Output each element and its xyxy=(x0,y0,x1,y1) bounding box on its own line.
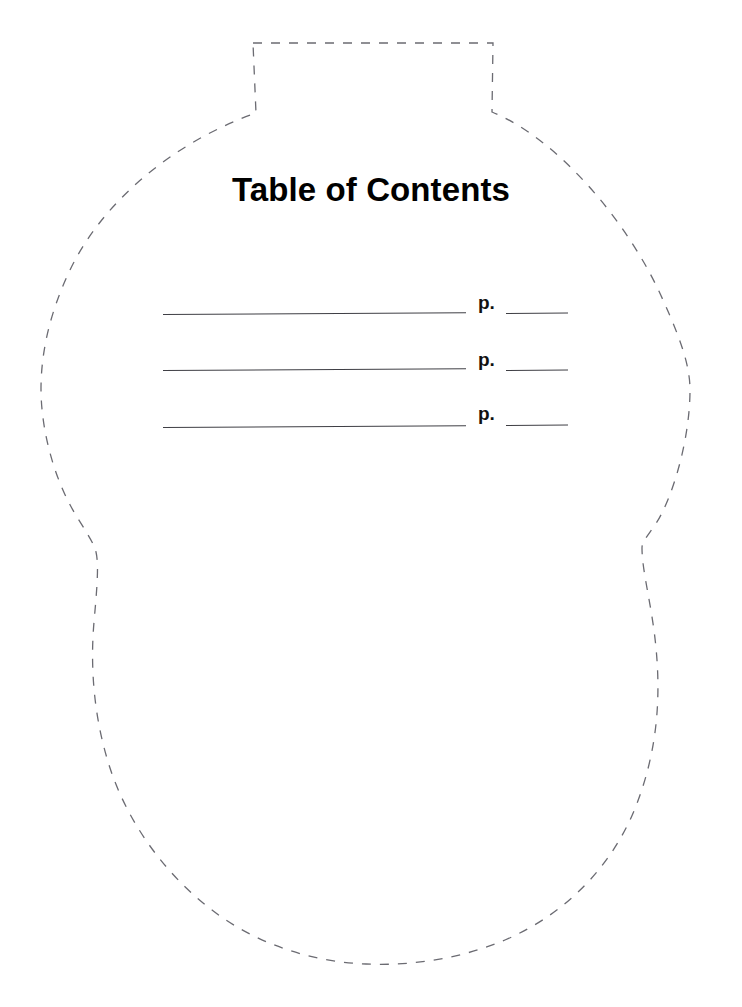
entry-page-blank-line[interactable] xyxy=(506,313,568,314)
entry-title-blank-line[interactable] xyxy=(163,425,466,428)
vase-outline-shape xyxy=(0,0,742,1007)
entry-page-label: p. xyxy=(478,349,495,371)
table-of-contents-row: p. xyxy=(0,292,742,350)
page-title: Table of Contents xyxy=(0,170,742,210)
entry-page-blank-line[interactable] xyxy=(506,425,568,426)
table-of-contents-row: p. xyxy=(0,408,742,466)
entries-list: p. p. p. xyxy=(0,292,742,466)
entry-title-blank-line[interactable] xyxy=(163,312,466,315)
entry-page-label: p. xyxy=(478,403,495,425)
entry-page-label: p. xyxy=(478,292,495,314)
entry-page-blank-line[interactable] xyxy=(506,370,568,371)
worksheet-page: Table of Contents p. p. p. xyxy=(0,0,742,1007)
table-of-contents-row: p. xyxy=(0,350,742,408)
entry-title-blank-line[interactable] xyxy=(163,368,466,371)
